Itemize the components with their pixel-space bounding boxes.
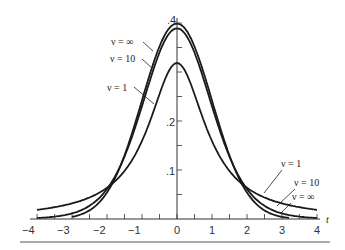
label-right-nu-10: ν = 10 [294,177,319,188]
label-left-nu-10: ν = 10 [110,53,135,64]
x-tick-label-2: 2 [244,224,250,236]
y-ticks [177,23,182,195]
x-tick-label-3: 3 [279,224,285,236]
x-tick-label-m4: −4 [22,224,35,236]
label-right-nu-inf: ν = ∞ [292,191,314,202]
x-tick-label-4: 4 [314,224,320,236]
y-tick-label-0.1: .1 [166,165,175,177]
x-tick-label-0: 0 [174,224,180,236]
y-tick-label-0.4: .4 [167,14,176,26]
t-distribution-chart: .4 .2 .1 −4 −3 −2 −1 0 1 2 3 4 t ν = ∞ ν… [0,0,345,250]
x-tick-label-m1: −1 [128,224,141,236]
x-axis-label-t: t [326,214,329,225]
label-left-nu-1: ν = 1 [107,82,127,93]
leader-left-nu-10 [142,59,152,68]
x-tick-label-m2: −2 [93,224,106,236]
label-right-nu-1: ν = 1 [281,158,301,169]
leader-right-nu-1 [264,170,282,193]
x-tick-label-1: 1 [209,224,215,236]
x-tick-label-m3: −3 [57,224,70,236]
y-tick-label-0.2: .2 [166,116,175,128]
leader-left-nu-inf [143,42,153,51]
label-left-nu-inf: ν = ∞ [111,36,133,47]
